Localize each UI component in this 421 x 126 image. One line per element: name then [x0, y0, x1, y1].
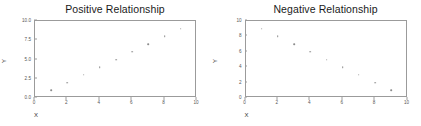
- data-point: [164, 36, 166, 38]
- x-tick-mark: [131, 97, 132, 100]
- y-tick-label: 5.0: [25, 56, 31, 61]
- y-tick-label: 10: [236, 18, 241, 23]
- y-tick-label: 10.0: [22, 18, 31, 23]
- x-tick-label: 10: [193, 100, 198, 105]
- x-tick-label: 0: [33, 100, 36, 105]
- y-tick-mark: [245, 81, 248, 82]
- plot-area: [245, 20, 407, 97]
- data-point: [50, 90, 52, 92]
- x-tick-label: 2: [65, 100, 68, 105]
- y-tick-label: 2: [239, 79, 242, 84]
- y-tick-label: 8: [239, 33, 242, 38]
- y-tick-mark: [245, 50, 248, 51]
- chart-title: Positive Relationship: [34, 3, 196, 15]
- y-tick-mark: [245, 35, 248, 36]
- x-tick-mark: [374, 97, 375, 100]
- x-tick-mark: [163, 97, 164, 100]
- y-tick-label: 0.0: [25, 95, 31, 100]
- y-tick-label: 0: [239, 95, 242, 100]
- scatter-plot-figure: Positive Relationship 0.02.55.07.510.0 0…: [0, 0, 421, 126]
- data-point: [83, 74, 85, 76]
- x-tick-mark: [98, 97, 99, 100]
- y-axis-label: Y: [212, 59, 218, 63]
- x-tick-label: 4: [98, 100, 101, 105]
- data-point: [261, 28, 263, 30]
- y-tick-mark: [34, 97, 37, 98]
- data-point: [99, 66, 101, 68]
- x-tick-label: 10: [404, 100, 409, 105]
- x-tick-label: 8: [373, 100, 376, 105]
- x-tick-mark: [276, 97, 277, 100]
- x-tick-label: 0: [243, 100, 246, 105]
- y-tick-mark: [34, 20, 37, 21]
- y-axis-ticks: 0.02.55.07.510.0: [14, 20, 31, 97]
- y-tick-label: 7.5: [25, 37, 31, 42]
- x-tick-mark: [406, 97, 407, 100]
- x-tick-mark: [341, 97, 342, 100]
- y-tick-label: 4: [239, 64, 242, 69]
- x-tick-mark: [196, 97, 197, 100]
- data-point: [326, 59, 328, 61]
- data-point: [148, 43, 150, 45]
- y-axis-ticks: 0246810: [225, 20, 242, 97]
- plot-area: [34, 20, 196, 97]
- y-tick-mark: [34, 77, 37, 78]
- data-point: [310, 51, 312, 53]
- chart-title: Negative Relationship: [245, 3, 407, 15]
- x-axis-label: X: [245, 112, 249, 118]
- data-point: [374, 82, 376, 84]
- x-tick-label: 6: [340, 100, 343, 105]
- x-tick-label: 2: [276, 100, 279, 105]
- data-point: [358, 74, 360, 76]
- x-tick-label: 6: [130, 100, 133, 105]
- y-tick-label: 6: [239, 48, 242, 53]
- y-tick-mark: [245, 66, 248, 67]
- scatter-points-layer: [246, 21, 406, 96]
- x-axis-ticks: 0246810: [34, 97, 196, 109]
- y-axis-label: Y: [1, 59, 7, 63]
- data-point: [293, 43, 295, 45]
- chart-panel-negative: Negative Relationship 0246810 0246810 X …: [211, 0, 421, 126]
- data-point: [342, 66, 344, 68]
- data-point: [115, 59, 117, 61]
- x-tick-label: 8: [162, 100, 165, 105]
- y-tick-mark: [34, 58, 37, 59]
- x-axis-label: X: [34, 112, 38, 118]
- scatter-points-layer: [35, 21, 195, 96]
- x-tick-mark: [66, 97, 67, 100]
- y-tick-mark: [245, 97, 248, 98]
- x-axis-ticks: 0246810: [245, 97, 407, 109]
- y-tick-mark: [34, 39, 37, 40]
- x-tick-mark: [309, 97, 310, 100]
- chart-panel-positive: Positive Relationship 0.02.55.07.510.0 0…: [0, 0, 211, 126]
- data-point: [67, 82, 69, 84]
- data-point: [277, 36, 279, 38]
- y-tick-label: 2.5: [25, 75, 31, 80]
- data-point: [180, 28, 182, 30]
- data-point: [131, 51, 133, 53]
- data-point: [391, 90, 393, 92]
- y-tick-mark: [245, 20, 248, 21]
- x-tick-label: 4: [308, 100, 311, 105]
